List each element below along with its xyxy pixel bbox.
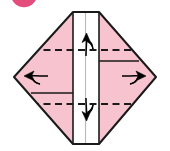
origami-diagram-svg [0, 0, 170, 151]
center-band [73, 12, 99, 144]
origami-figure: Origami fold step diagram Pink square ro… [0, 0, 170, 151]
